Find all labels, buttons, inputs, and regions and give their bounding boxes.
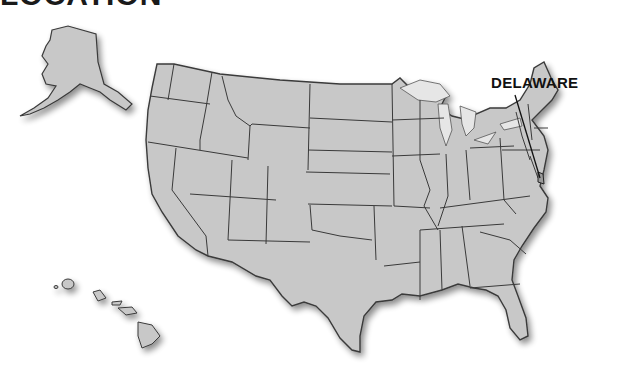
us-map — [0, 0, 619, 379]
delaware-label: DELAWARE — [491, 74, 578, 91]
contiguous-us — [146, 62, 558, 352]
alaska-inset — [20, 26, 132, 116]
hawaii-inset — [54, 279, 160, 348]
